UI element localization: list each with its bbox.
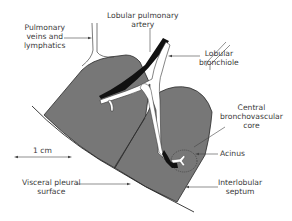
scale-bar (14, 156, 72, 158)
label-lobular-pulmonary-artery: Lobular pulmonary artery (107, 11, 179, 29)
label-scale: 1 cm (33, 146, 52, 155)
label-acinus: Acinus (220, 149, 245, 158)
label-interlobular-septum: Interlobular septum (218, 178, 262, 196)
label-visceral-pleural-surface: Visceral pleural surface (22, 178, 81, 196)
label-central-bronchovascular-core: Central bronchovascular core (220, 103, 283, 130)
label-lobular-bronchiole: Lobular bronchiole (199, 49, 239, 67)
label-pulmonary-veins: Pulmonary veins and lymphatics (24, 23, 66, 50)
